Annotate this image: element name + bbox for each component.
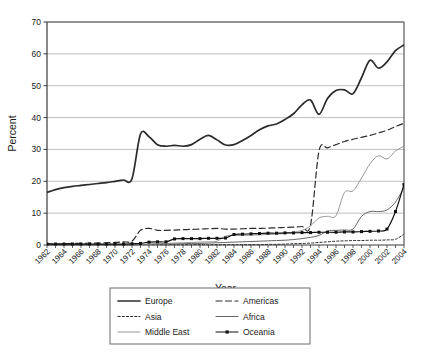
x-tick-label: 1990: [271, 247, 290, 266]
x-tick-label: 1978: [169, 247, 188, 266]
x-tick-label: 1992: [288, 247, 307, 266]
series-marker-oceania: [318, 231, 321, 234]
series-marker-oceania: [131, 242, 134, 245]
x-tick-label: 1964: [50, 247, 69, 266]
series-marker-oceania: [275, 232, 278, 235]
series-marker-oceania: [403, 183, 406, 186]
y-tick-label: 60: [32, 49, 42, 59]
legend-label-asia: Asia: [145, 312, 162, 322]
chart-figure: 0102030405060701962196419661968197019721…: [0, 0, 422, 352]
series-line-oceania: [47, 184, 404, 244]
series-marker-oceania: [292, 231, 295, 234]
series-marker-oceania: [394, 210, 397, 213]
series-marker-oceania: [63, 243, 66, 246]
series-marker-oceania: [301, 231, 304, 234]
series-marker-oceania: [97, 243, 100, 246]
y-tick-label: 20: [32, 176, 42, 186]
series-marker-oceania: [250, 232, 253, 235]
x-tick-label: 2002: [373, 247, 392, 266]
x-tick-label: 1972: [118, 247, 137, 266]
x-tick-label: 2004: [390, 247, 409, 266]
line-chart: 0102030405060701962196419661968197019721…: [0, 0, 422, 352]
x-tick-label: 1980: [186, 247, 205, 266]
series-marker-oceania: [148, 241, 151, 244]
x-tick-label: 1982: [203, 247, 222, 266]
x-tick-label: 1974: [135, 247, 154, 266]
series-marker-oceania: [335, 231, 338, 234]
series-marker-oceania: [80, 243, 83, 246]
series-marker-oceania: [156, 240, 159, 243]
series-marker-oceania: [377, 229, 380, 232]
series-line-europe: [47, 45, 404, 193]
series-marker-oceania: [241, 233, 244, 236]
legend-label-americas: Americas: [243, 296, 278, 306]
x-tick-label: 1968: [84, 247, 103, 266]
series-marker-oceania: [182, 237, 185, 240]
legend-marker-oceania: [226, 330, 229, 333]
series-marker-oceania: [105, 243, 108, 246]
series-marker-oceania: [343, 230, 346, 233]
series-marker-oceania: [233, 233, 236, 236]
series-marker-oceania: [199, 237, 202, 240]
series-marker-oceania: [165, 240, 168, 243]
x-tick-label: 2000: [356, 247, 375, 266]
x-tick-label: 1970: [101, 247, 120, 266]
series-marker-oceania: [360, 230, 363, 233]
series-marker-oceania: [173, 237, 176, 240]
series-marker-oceania: [54, 243, 57, 246]
x-tick-label: 1986: [237, 247, 256, 266]
series-marker-oceania: [207, 237, 210, 240]
series-marker-oceania: [369, 230, 372, 233]
y-tick-label: 40: [32, 113, 42, 123]
series-marker-oceania: [386, 228, 389, 231]
legend-label-africa: Africa: [243, 312, 265, 322]
x-tick-label: 1994: [305, 247, 324, 266]
x-tick-label: 1976: [152, 247, 171, 266]
series-marker-oceania: [258, 232, 261, 235]
series-marker-oceania: [352, 230, 355, 233]
legend-label-europe: Europe: [145, 296, 173, 306]
series-marker-oceania: [114, 243, 117, 246]
series-marker-oceania: [71, 243, 74, 246]
x-tick-label: 1996: [322, 247, 341, 266]
series-marker-oceania: [216, 237, 219, 240]
series-marker-oceania: [309, 231, 312, 234]
series-marker-oceania: [326, 231, 329, 234]
y-tick-label: 0: [36, 240, 41, 250]
legend-label-oceania: Oceania: [243, 327, 275, 337]
y-tick-label: 10: [32, 208, 42, 218]
series-marker-oceania: [224, 236, 227, 239]
series-marker-oceania: [190, 237, 193, 240]
y-tick-label: 30: [32, 144, 42, 154]
series-marker-oceania: [139, 242, 142, 245]
legend-label-middle-east: Middle East: [145, 327, 190, 337]
series-marker-oceania: [88, 243, 91, 246]
series-marker-oceania: [122, 243, 125, 246]
y-axis-title: Percent: [6, 115, 18, 151]
x-tick-label: 1988: [254, 247, 273, 266]
series-marker-oceania: [267, 232, 270, 235]
y-tick-label: 50: [32, 81, 42, 91]
series-marker-oceania: [284, 231, 287, 234]
x-tick-label: 1966: [67, 247, 86, 266]
x-tick-label: 1998: [339, 247, 358, 266]
y-tick-label: 70: [32, 17, 42, 27]
x-tick-label: 1984: [220, 247, 239, 266]
